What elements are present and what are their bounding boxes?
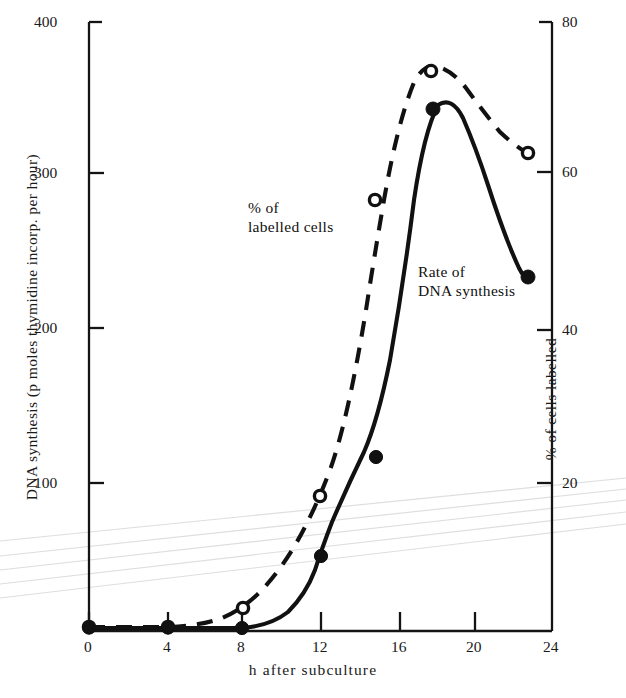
data-point-filled bbox=[426, 102, 440, 116]
y-axis-left-title: DNA synthesis (p moles thymidine incorp.… bbox=[23, 107, 41, 547]
y-axis-left-ticks bbox=[89, 173, 104, 483]
data-point-open bbox=[237, 602, 248, 613]
y-right-tick-label-20: 20 bbox=[562, 474, 578, 492]
x-tick-label-20: 20 bbox=[466, 638, 482, 656]
x-tick-label-8: 8 bbox=[237, 638, 245, 656]
annotation-labelled-cells: % of labelled cells bbox=[248, 198, 334, 236]
x-tick-label-4: 4 bbox=[163, 638, 171, 656]
plot-area bbox=[0, 0, 626, 698]
data-point-filled bbox=[83, 622, 95, 634]
y-axis-right-title: % of cells labelled bbox=[542, 259, 560, 539]
figure-canvas: 400 300 200 100 80 60 40 20 0 4 8 12 16 … bbox=[0, 0, 626, 698]
x-tick-label-24: 24 bbox=[543, 638, 559, 656]
rate-dna-markers bbox=[83, 102, 535, 635]
y-right-tick-label-60: 60 bbox=[562, 163, 578, 181]
data-point-filled bbox=[235, 621, 248, 634]
data-point-open bbox=[314, 490, 325, 501]
x-tick-label-12: 12 bbox=[312, 638, 328, 656]
data-point-open bbox=[425, 65, 436, 76]
x-axis-title: h after subculture bbox=[0, 661, 626, 679]
y-right-tick-label-40: 40 bbox=[562, 321, 578, 339]
series-labelled-cells bbox=[83, 65, 533, 632]
data-point-filled bbox=[369, 450, 382, 463]
x-tick-label-0: 0 bbox=[84, 638, 92, 656]
labelled-cells-markers bbox=[83, 65, 533, 632]
rate-dna-curve bbox=[89, 102, 528, 628]
series-rate-dna-synthesis bbox=[83, 102, 535, 635]
data-point-filled bbox=[314, 549, 327, 562]
data-point-filled bbox=[162, 622, 174, 634]
data-point-open bbox=[369, 194, 380, 205]
labelled-cells-curve bbox=[89, 66, 527, 627]
y-right-tick-label-80: 80 bbox=[562, 13, 578, 31]
data-point-open bbox=[522, 147, 533, 158]
y-left-tick-label-400: 400 bbox=[34, 13, 57, 31]
x-tick-label-16: 16 bbox=[391, 638, 407, 656]
data-point-filled bbox=[521, 270, 535, 284]
annotation-rate-dna-synthesis: Rate of DNA synthesis bbox=[418, 262, 515, 300]
